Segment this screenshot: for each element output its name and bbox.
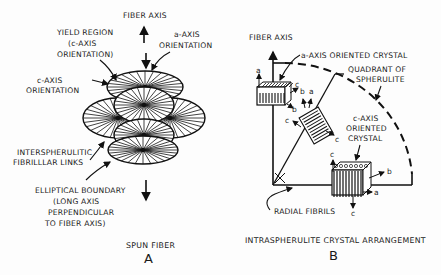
c-axis-oriented-crystal-label: c-AXIS ORIENTED CRYSTAL [346, 114, 387, 143]
a-crystal-a-label: a [256, 66, 261, 75]
spherulite-cluster [83, 71, 205, 164]
panel-a-letter: A [144, 251, 153, 266]
tilt-crystal-c-left-arrow-icon [293, 121, 301, 127]
panel-b-letter: B [329, 248, 338, 263]
c-crystal-c-down-label: c [351, 209, 355, 218]
panel-b: FIBER AXIS a c b a-AXIS ORIENTED CRYSTAL [245, 33, 426, 263]
c-crystal-pointer-arrow-icon [356, 145, 360, 160]
tilt-crystal-b-arrow-icon [303, 99, 305, 108]
svg-text:PERPENDICULAR: PERPENDICULAR [48, 208, 115, 217]
tilt-crystal-c-right-label: c [335, 135, 339, 144]
svg-text:ELLIPTICAL BOUNDARY: ELLIPTICAL BOUNDARY [35, 186, 126, 195]
svg-text:ORIENTED: ORIENTED [346, 124, 387, 133]
spherulite [108, 136, 178, 164]
svg-text:ORIENTATION): ORIENTATION) [57, 50, 114, 59]
c-crystal-b-label: b [387, 167, 392, 176]
svg-text:TO FIBER AXIS): TO FIBER AXIS) [44, 219, 106, 228]
a-axis-orientation-label: a-AXIS ORIENTATION [159, 30, 212, 50]
svg-text:CRYSTAL: CRYSTAL [348, 134, 383, 143]
spherulite [114, 87, 174, 123]
tilt-crystal-b-label: b [300, 87, 305, 96]
radial-fibrils-label: RADIAL FIBRILS [274, 207, 335, 216]
c-axis-orientation-label: c-AXIS ORIENTATION [26, 76, 79, 95]
svg-text:c-AXIS: c-AXIS [353, 114, 378, 123]
diagram-canvas: FIBER AXIS YIELD REGION (c-AXIS ORIENTAT… [0, 0, 441, 275]
panel-a-fiber-axis-label: FIBER AXIS [123, 11, 167, 20]
svg-text:(c-AXIS: (c-AXIS [68, 39, 97, 48]
tilt-crystal-a-arrow-icon [309, 99, 311, 108]
c-crystal-a-label: a [374, 188, 379, 197]
yield-region-label: YIELD REGION (c-AXIS ORIENTATION) [56, 28, 114, 59]
quadrant-pointer-arrow-icon [376, 86, 381, 100]
panel-b-caption: INTRASPHERULITE CRYSTAL ARRANGEMENT [245, 236, 426, 245]
svg-text:(LONG AXIS: (LONG AXIS [53, 197, 99, 206]
panel-a: FIBER AXIS YIELD REGION (c-AXIS ORIENTAT… [13, 11, 212, 266]
tilt-crystal-c-left-label: c [285, 116, 289, 125]
quadrant-of-spherulite-label: QUADRANT OF SPHERULITE [348, 65, 406, 84]
svg-text:c-AXIS: c-AXIS [37, 76, 62, 85]
yield-region-pointer-arrow-icon [100, 60, 116, 80]
interspherulitic-links-label: INTERSPHERULITIC FIBRILLLAR LINKS [13, 148, 92, 167]
svg-text:ORIENTATION: ORIENTATION [26, 86, 79, 95]
panel-b-fiber-axis-label: FIBER AXIS [249, 33, 293, 42]
tilt-crystal-a-label: a [309, 87, 314, 96]
elliptical-boundary-label: ELLIPTICAL BOUNDARY (LONG AXIS PERPENDIC… [35, 186, 126, 228]
svg-text:FIBRILLLAR LINKS: FIBRILLLAR LINKS [13, 158, 83, 167]
a-crystal-c-label: c [295, 80, 299, 89]
a-axis-oriented-crystal-label: a-AXIS ORIENTED CRYSTAL [301, 51, 408, 60]
svg-text:ORIENTATION: ORIENTATION [159, 41, 212, 50]
a-axis-oriented-crystal [257, 82, 293, 105]
a-crystal-b-label: b [292, 105, 297, 114]
a-crystal-pointer-arrow-icon [280, 55, 300, 80]
c-axis-pointer-arrow-icon [92, 80, 108, 84]
svg-text:YIELD REGION: YIELD REGION [56, 28, 113, 37]
svg-text:QUADRANT OF: QUADRANT OF [348, 65, 406, 74]
c-crystal-c-up-label: c [330, 150, 334, 159]
svg-text:SPHERULITE: SPHERULITE [356, 75, 405, 84]
svg-text:a-AXIS: a-AXIS [174, 30, 200, 39]
svg-text:INTERSPHERULITIC: INTERSPHERULITIC [17, 148, 92, 157]
tilted-intermediate-crystal [299, 107, 333, 144]
elliptical-boundary-pointer-arrow-icon [86, 162, 110, 180]
panel-a-caption: SPUN FIBER [126, 241, 175, 250]
a-axis-pointer-arrow-icon [152, 52, 170, 70]
